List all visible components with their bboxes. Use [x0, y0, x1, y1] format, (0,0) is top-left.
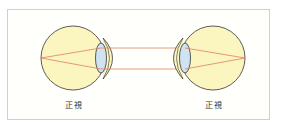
right-eye-label: 正視	[205, 99, 222, 110]
right-eye	[174, 26, 246, 90]
left-eye	[41, 26, 113, 90]
left-eye-label: 正視	[65, 99, 82, 110]
emmetropia-diagram	[0, 0, 286, 130]
